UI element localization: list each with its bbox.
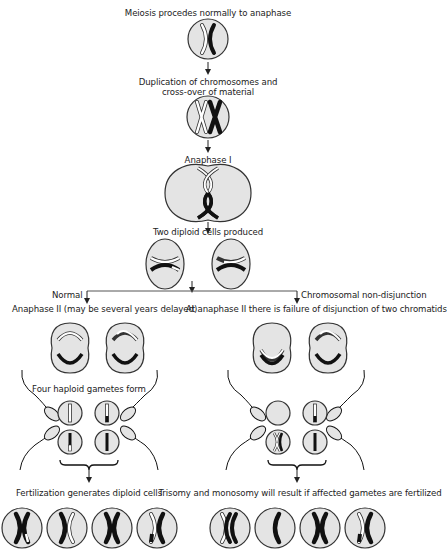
step-4-label: Two diploid cells produced	[153, 227, 263, 237]
brace-nondisjunction	[268, 460, 326, 470]
cell-diploid-right	[212, 239, 250, 289]
brace-normal	[60, 460, 118, 470]
nondisjunction-heading: Chromosomal non-disjunction	[301, 290, 427, 300]
normal-result-label: Fertilization generates diploid cells	[16, 488, 162, 498]
step-3-label: Anaphase I	[185, 155, 232, 165]
step-2-label-line2: cross-over of material	[162, 87, 254, 97]
cell-duplication	[187, 96, 229, 138]
zygotes-nondisjunction	[210, 508, 385, 548]
cell-anaphase2-normal-left	[51, 323, 89, 373]
cell-anaphase-1	[165, 164, 251, 221]
step-2-label-line1: Duplication of chromosomes and	[139, 77, 278, 87]
normal-subheading: Anaphase II (may be several years delaye…	[12, 304, 197, 314]
normal-heading: Normal	[52, 290, 83, 300]
cell-diploid-left	[146, 239, 184, 289]
cell-anaphase2-nd-left	[253, 323, 291, 373]
cell-anaphase2-normal-right	[106, 323, 144, 373]
cell-initial	[188, 19, 228, 59]
nondisjunction-subheading: At anaphase II there is failure of disju…	[186, 304, 447, 314]
gametes-normal	[58, 401, 119, 454]
gametes-nondisjunction	[266, 401, 327, 454]
gametes-label: Four haploid gametes form	[32, 384, 146, 394]
cell-anaphase2-nd-right	[309, 323, 347, 373]
step-1-label: Meiosis procedes normally to anaphase	[125, 8, 291, 18]
nondisjunction-result-label: Trisomy and monosomy will result if affe…	[158, 488, 441, 498]
sperm-group-nondisjunction	[226, 370, 365, 470]
zygotes-normal	[2, 508, 177, 548]
